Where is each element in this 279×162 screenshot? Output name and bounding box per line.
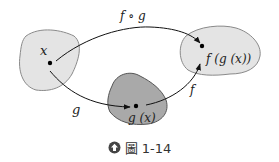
label-fgx: f (g (x))	[205, 52, 252, 66]
caption-text: 圖 1-14	[125, 138, 172, 157]
point-fgx	[200, 44, 204, 48]
label-g: g	[72, 102, 80, 117]
point-x	[48, 61, 52, 65]
circle-arrow-icon	[108, 141, 121, 154]
figure-caption: 圖 1-14	[0, 138, 279, 157]
label-f: f	[189, 83, 197, 97]
label-x: x	[40, 43, 48, 58]
label-gx: g (x)	[128, 111, 156, 125]
codomain-set-fgx	[180, 26, 260, 75]
label-f-compose-g: f ∘ g	[119, 9, 146, 23]
domain-set-x	[20, 30, 80, 91]
point-gx	[134, 104, 138, 108]
